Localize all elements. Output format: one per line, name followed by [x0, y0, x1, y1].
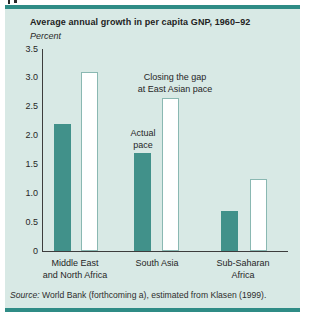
- cropped-text-fragment: [8, 0, 10, 4]
- bar-actual-pace: [54, 124, 71, 251]
- y-tick-label: 3.5: [5, 44, 38, 55]
- bar-actual-pace: [221, 211, 238, 251]
- annotation-label: Closing the gapat East Asian pace: [100, 72, 250, 95]
- bar-gap-closing: [250, 179, 267, 251]
- source-text: World Bank (forthcoming a), estimated fr…: [40, 290, 267, 300]
- bar-actual-pace: [134, 153, 151, 251]
- y-tick-label: 2.5: [5, 101, 38, 112]
- x-category-label: Sub-SaharanAfrica: [178, 257, 308, 281]
- cropped-text-fragment: [14, 0, 17, 3]
- y-tick-label: 0: [5, 246, 38, 257]
- source-note: Source: World Bank (forthcoming a), esti…: [10, 290, 298, 300]
- annotation-label: Actualpace: [93, 128, 193, 151]
- y-tick-label: 1.0: [5, 188, 38, 199]
- figure-panel: Average annual growth in per capita GNP,…: [5, 5, 300, 312]
- bar-gap-closing: [81, 72, 98, 251]
- y-tick-label: 0.5: [5, 217, 38, 228]
- y-tick-label: 3.0: [5, 72, 38, 83]
- y-axis-unit-label: Percent: [30, 31, 61, 41]
- source-label: Source:: [10, 290, 40, 300]
- y-tick-label: 2.0: [5, 130, 38, 141]
- y-tick-label: 1.5: [5, 159, 38, 170]
- bar-gap-closing: [162, 98, 179, 251]
- chart-title: Average annual growth in per capita GNP,…: [30, 17, 295, 27]
